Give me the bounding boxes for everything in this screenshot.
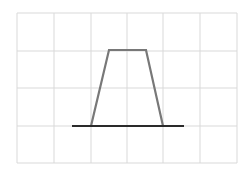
grid bbox=[17, 13, 237, 163]
diagram-canvas bbox=[0, 0, 245, 169]
